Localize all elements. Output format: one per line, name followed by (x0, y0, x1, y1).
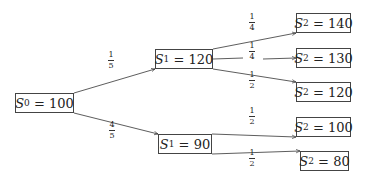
equals-sign: = (30, 96, 49, 111)
node-variable: S (299, 154, 308, 169)
node-s2d: S2 = 100 (296, 117, 351, 137)
node-s2e: S2 = 80 (300, 151, 349, 171)
node-value: 140 (328, 16, 353, 31)
node-s2a: S2 = 140 (296, 13, 351, 33)
numerator: 1 (249, 71, 254, 79)
node-variable: S (294, 120, 303, 135)
node-value: 100 (49, 96, 74, 111)
numerator: 1 (249, 107, 254, 115)
node-variable: S (160, 137, 169, 152)
node-variable: S (294, 16, 303, 31)
denominator: 2 (249, 82, 254, 90)
node-variable: S (294, 51, 303, 66)
edge-arrow (74, 69, 155, 93)
denominator: 2 (249, 160, 254, 168)
edge-arrow (213, 58, 243, 59)
node-value: 120 (189, 52, 214, 67)
equals-sign: = (309, 120, 328, 135)
node-value: 120 (328, 85, 353, 100)
probability-label: 12 (249, 107, 255, 126)
probability-label: 15 (108, 51, 114, 70)
probability-label: 14 (249, 13, 255, 32)
denominator: 5 (108, 62, 113, 70)
edge-arrow (212, 151, 300, 154)
equals-sign: = (169, 52, 188, 67)
node-s1b: S1 = 90 (158, 134, 212, 154)
numerator: 4 (109, 121, 114, 129)
numerator: 1 (249, 149, 254, 157)
node-value: 90 (194, 137, 211, 152)
probability-label: 12 (249, 71, 255, 90)
equals-sign: = (174, 137, 193, 152)
denominator: 5 (109, 132, 114, 140)
equals-sign: = (309, 85, 328, 100)
edge-arrow (263, 58, 296, 59)
node-variable: S (294, 85, 303, 100)
numerator: 1 (108, 51, 113, 59)
node-variable: S (15, 96, 24, 111)
equals-sign: = (309, 16, 328, 31)
edge-arrow (74, 113, 158, 134)
denominator: 4 (249, 24, 254, 32)
edge-arrow (212, 134, 296, 137)
probability-label: 14 (249, 42, 255, 61)
probability-label: 12 (249, 149, 255, 168)
equals-sign: = (314, 154, 333, 169)
equals-sign: = (309, 51, 328, 66)
node-s1a: S1 = 120 (155, 49, 213, 69)
node-s0: S0 = 100 (15, 93, 74, 113)
node-value: 100 (328, 120, 353, 135)
node-value: 80 (333, 154, 350, 169)
node-variable: S (155, 52, 164, 67)
denominator: 4 (249, 53, 254, 61)
numerator: 1 (249, 42, 254, 50)
denominator: 2 (249, 118, 254, 126)
probability-label: 45 (109, 121, 115, 140)
node-value: 130 (328, 51, 353, 66)
numerator: 1 (249, 13, 254, 21)
node-s2c: S2 = 120 (296, 82, 351, 102)
node-s2b: S2 = 130 (296, 48, 351, 68)
